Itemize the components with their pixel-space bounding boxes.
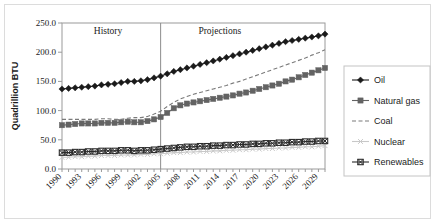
x-tick-label: 2008 <box>162 171 182 191</box>
y-axis-ticks: 0.050.0100.0150.0200.0250.0 <box>36 18 62 174</box>
energy-consumption-line-chart: 0.050.0100.0150.0200.0250.0 199019931996… <box>0 0 435 224</box>
y-tick-label: 200.0 <box>36 47 57 57</box>
legend-label: Nuclear <box>374 137 405 147</box>
x-tick-label: 2026 <box>280 171 300 191</box>
x-tick-label: 1990 <box>44 171 64 191</box>
legend-label: Renewables <box>374 157 424 167</box>
annotation-history: History <box>94 26 123 36</box>
chart-figure: 0.050.0100.0150.0200.0250.0 199019931996… <box>0 0 435 224</box>
y-axis-label: Quadrillion BTU <box>10 62 20 131</box>
chart-legend: OilNatural gasCoalNuclearRenewables <box>344 66 430 176</box>
annotation-projections: Projections <box>198 26 241 36</box>
x-tick-label: 1993 <box>63 171 83 191</box>
x-tick-label: 2029 <box>300 171 320 191</box>
y-tick-label: 150.0 <box>36 76 57 86</box>
x-tick-label: 2011 <box>182 171 202 191</box>
legend-label: Coal <box>374 116 393 126</box>
legend-label: Oil <box>374 75 385 85</box>
x-axis-ticks: 1990199319961999200220052008201120142017… <box>44 169 325 191</box>
x-tick-label: 2023 <box>261 171 281 191</box>
y-tick-label: 100.0 <box>36 106 57 116</box>
x-tick-label: 1996 <box>83 171 103 191</box>
legend-label: Natural gas <box>374 96 421 106</box>
x-tick-label: 2002 <box>123 171 143 191</box>
y-tick-label: 50.0 <box>40 135 56 145</box>
x-tick-label: 2014 <box>201 171 221 191</box>
x-tick-label: 2017 <box>221 171 241 191</box>
y-tick-label: 250.0 <box>36 18 57 28</box>
legend-marker-square-icon <box>358 98 363 103</box>
x-tick-label: 2020 <box>241 171 261 191</box>
x-tick-label: 2005 <box>142 171 162 191</box>
x-tick-label: 1999 <box>103 171 123 191</box>
